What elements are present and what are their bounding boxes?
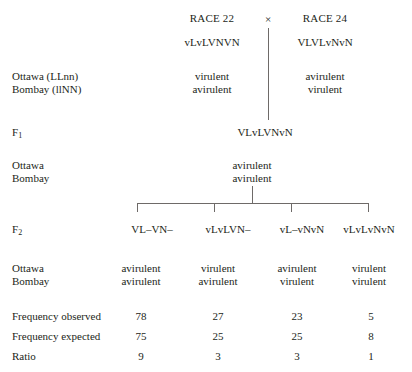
f2-genotype-4: vLvLvNvN [343, 223, 394, 236]
f2-genotype-1: VL–VN– [131, 223, 173, 236]
ratio-value-3: 3 [294, 350, 300, 363]
f2-phenotype-3-ottawa: avirulent [277, 262, 316, 275]
frequency-observed-value-4: 5 [368, 310, 374, 323]
f2-phenotype-1-bombay: avirulent [121, 275, 160, 288]
f2-phenotype-2-ottawa: virulent [198, 262, 237, 275]
f1-phenotypes: avirulent avirulent [232, 159, 271, 185]
cross-connector-line [268, 28, 269, 120]
f1-to-f2-stem-line [252, 186, 253, 203]
frequency-observed-value-3: 23 [292, 310, 303, 323]
host-label-bombay-f1: Bombay [12, 172, 49, 185]
parent-race-24-genotype: VLVLvNvN [297, 36, 352, 49]
f2-genotype-3: vL–vNvN [280, 223, 325, 236]
parent-race-24-name: RACE 24 [303, 12, 348, 25]
row-label-ratio: Ratio [12, 350, 36, 363]
genetic-cross-figure: RACE 22 × RACE 24 vLvLVNVN VLVLvNvN Otta… [0, 0, 412, 372]
parent-race-22-genotype: vLvLVNVN [184, 36, 239, 49]
host-label-bombay-f2: Bombay [12, 275, 49, 288]
f2-branch-tick-3 [291, 203, 292, 212]
row-label-frequency-expected: Frequency expected [12, 330, 100, 343]
f1-phenotype-ottawa: avirulent [232, 159, 271, 172]
parent-race-24-phenotypes: avirulent virulent [305, 70, 344, 96]
parent-race-22-phenotype-ottawa: virulent [192, 70, 231, 83]
f2-branch-tick-1 [137, 203, 138, 212]
host-label-bombay-parents: Bombay (llNN) [12, 83, 81, 96]
f1-phenotype-bombay: avirulent [232, 172, 271, 185]
f2-branch-tick-4 [368, 203, 369, 212]
generation-label-f2-subscript: 2 [18, 228, 22, 237]
f2-phenotypes-3: avirulent virulent [277, 262, 316, 288]
f2-phenotypes-4: virulent virulent [352, 262, 386, 288]
cross-symbol: × [265, 13, 271, 26]
f2-phenotype-2-bombay: avirulent [198, 275, 237, 288]
f1-genotype: VLvLVNvN [237, 126, 292, 139]
frequency-expected-value-2: 25 [213, 330, 224, 343]
frequency-expected-value-1: 75 [136, 330, 147, 343]
f2-distribution-bar [137, 203, 369, 204]
f2-phenotypes-1: avirulent avirulent [121, 262, 160, 288]
f2-genotype-2: vLvLVN– [206, 223, 251, 236]
f2-phenotype-3-bombay: virulent [277, 275, 316, 288]
generation-label-f1-subscript: 1 [18, 131, 22, 140]
generation-label-f2: F2 [12, 223, 22, 237]
frequency-expected-value-4: 8 [368, 330, 374, 343]
frequency-observed-value-1: 78 [136, 310, 147, 323]
host-label-ottawa-parents: Ottawa (LLnn) [12, 70, 78, 83]
parent-race-22-name: RACE 22 [190, 12, 235, 25]
f2-phenotype-4-bombay: virulent [352, 275, 386, 288]
f2-phenotype-1-ottawa: avirulent [121, 262, 160, 275]
frequency-observed-value-2: 27 [213, 310, 224, 323]
host-label-ottawa-f1: Ottawa [12, 159, 44, 172]
f2-phenotype-4-ottawa: virulent [352, 262, 386, 275]
ratio-value-1: 9 [138, 350, 144, 363]
parent-race-22-phenotypes: virulent avirulent [192, 70, 231, 96]
ratio-value-4: 1 [368, 350, 374, 363]
f2-phenotypes-2: virulent avirulent [198, 262, 237, 288]
parent-race-24-phenotype-bombay: virulent [305, 83, 344, 96]
host-label-ottawa-f2: Ottawa [12, 262, 44, 275]
parent-race-22-phenotype-bombay: avirulent [192, 83, 231, 96]
frequency-expected-value-3: 25 [292, 330, 303, 343]
ratio-value-2: 3 [215, 350, 221, 363]
row-label-frequency-observed: Frequency observed [12, 310, 101, 323]
parent-race-24-phenotype-ottawa: avirulent [305, 70, 344, 83]
generation-label-f1: F1 [12, 126, 22, 140]
f2-branch-tick-2 [214, 203, 215, 212]
